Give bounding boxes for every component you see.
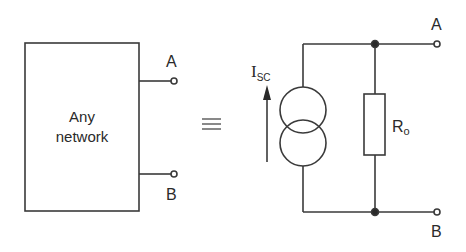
equivalence-icon — [202, 119, 221, 129]
norton-terminal-a-label: A — [431, 16, 442, 34]
current-subscript: SC — [257, 72, 271, 83]
norton-terminal-a-node — [434, 41, 440, 47]
top-junction-dot — [372, 41, 379, 48]
network-label: Any network — [25, 107, 139, 147]
current-arrow-head-icon — [263, 85, 271, 100]
resistor-symbol: R — [392, 118, 404, 135]
terminal-a-label: A — [166, 53, 177, 71]
current-source-label: ISC — [251, 62, 271, 82]
resistor-icon — [364, 94, 385, 155]
terminal-a-node — [171, 78, 177, 84]
resistor-label: Ro — [392, 118, 410, 136]
terminal-b-node — [171, 171, 177, 177]
resistor-subscript: o — [404, 125, 410, 137]
current-symbol: I — [251, 62, 257, 81]
current-source-icon — [280, 87, 326, 166]
norton-terminal-b-label: B — [431, 223, 442, 241]
network-label-line1: Any — [25, 107, 139, 127]
terminal-b-label: B — [166, 186, 177, 204]
bottom-junction-dot — [372, 209, 379, 216]
network-label-line2: network — [25, 127, 139, 147]
norton-terminal-b-node — [434, 209, 440, 215]
